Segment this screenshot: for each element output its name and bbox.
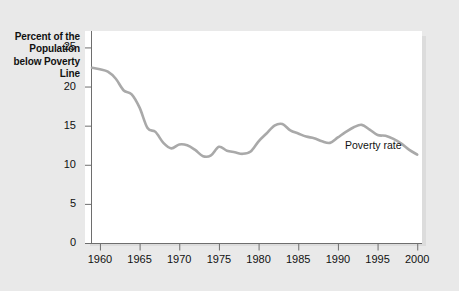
x-axis-tick-label: 1970	[159, 253, 199, 265]
y-axis-tick-label: 5	[30, 197, 76, 209]
y-axis-tick-label: 25	[30, 40, 76, 52]
poverty-rate-annotation: Poverty rate	[345, 139, 402, 151]
x-axis-tick-label: 2000	[397, 253, 437, 265]
y-axis-tick-label: 10	[30, 158, 76, 170]
poverty-rate-chart-figure: Percent of the Population below Poverty …	[0, 0, 459, 291]
x-axis-tick-label: 1975	[199, 253, 239, 265]
y-axis-tick-label: 0	[30, 236, 76, 248]
x-axis-tick-label: 1990	[318, 253, 358, 265]
y-axis-tick-label: 20	[30, 80, 76, 92]
x-axis-tick-label: 1965	[120, 253, 160, 265]
y-axis-ticks	[85, 48, 92, 244]
x-axis-tick-label: 1980	[239, 253, 279, 265]
y-axis-tick-label: 15	[30, 119, 76, 131]
x-axis-tick-label: 1995	[358, 253, 398, 265]
x-axis-ticks	[100, 244, 417, 251]
axes	[91, 31, 422, 244]
x-axis-tick-label: 1960	[80, 253, 120, 265]
x-axis-tick-label: 1985	[278, 253, 318, 265]
